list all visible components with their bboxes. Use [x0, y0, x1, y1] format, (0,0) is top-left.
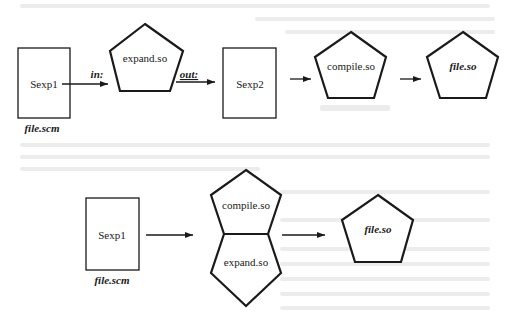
sexp1-label-bottom: Sexp1 — [98, 229, 126, 241]
top-row: Sexp1 file.scm in: expand.so out: Sexp2 … — [18, 24, 498, 134]
in-arrow-label: in: — [91, 68, 104, 80]
compile-so-label: compile.so — [327, 60, 375, 72]
expand-so-label-bottom: expand.so — [224, 256, 269, 268]
sexp1-label: Sexp1 — [30, 78, 58, 90]
expand-so-pentagon-bottom — [211, 234, 281, 306]
expand-so-label: expand.so — [123, 52, 168, 64]
sexp2-label: Sexp2 — [236, 78, 264, 90]
file-so-label: file.so — [449, 60, 477, 72]
compilation-diagram: Sexp1 file.scm in: expand.so out: Sexp2 … — [0, 0, 515, 316]
compile-so-label-bottom: compile.so — [222, 199, 270, 211]
bottom-row: Sexp1 file.scm compile.so expand.so file… — [86, 170, 413, 306]
file-scm-caption: file.scm — [24, 122, 60, 134]
file-scm-caption-bottom: file.scm — [94, 274, 130, 286]
file-so-label-bottom: file.so — [364, 223, 392, 235]
out-arrow-label: out: — [180, 68, 198, 80]
